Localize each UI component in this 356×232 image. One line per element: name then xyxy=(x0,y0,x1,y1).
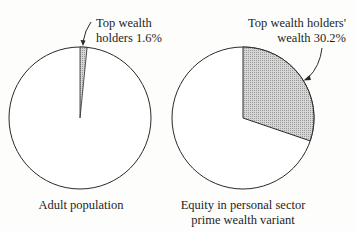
pie-adult-population xyxy=(9,22,151,189)
caption-right-line2: prime wealth variant xyxy=(163,213,323,227)
pie-equity-personal-sector xyxy=(172,47,322,189)
annotation-left-line2: holders 1.6% xyxy=(96,31,162,45)
annotation-arrow-right xyxy=(308,48,322,78)
caption-right-line1: Equity in personal sector xyxy=(163,198,323,212)
annotation-right-line1: Top wealth holders' xyxy=(248,16,346,30)
annotation-left-line1: Top wealth xyxy=(96,16,152,30)
annotation-arrow-left xyxy=(83,22,91,42)
caption-adult-population: Adult population xyxy=(0,198,162,212)
annotation-right-line2: wealth 30.2% xyxy=(277,31,346,45)
